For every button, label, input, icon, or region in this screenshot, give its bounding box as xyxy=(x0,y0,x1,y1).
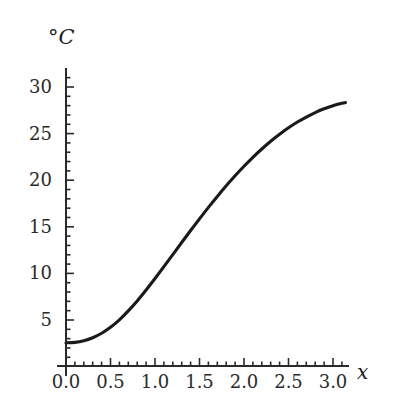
chart-figure: °C x 51015202530 0.00.51.01.52.02.53.0 xyxy=(0,0,396,415)
y-axis-ticks xyxy=(66,78,74,358)
x-tick-label: 3.0 xyxy=(319,373,348,391)
y-tick-label: 30 xyxy=(29,78,52,96)
y-tick-label: 5 xyxy=(41,311,52,329)
plot-area xyxy=(0,0,396,415)
y-tick-label: 15 xyxy=(29,218,52,236)
x-tick-label: 1.0 xyxy=(141,373,170,391)
x-axis-ticks xyxy=(66,358,342,366)
x-tick-label: 1.5 xyxy=(185,373,214,391)
x-tick-label: 0.5 xyxy=(96,373,125,391)
axis-lines xyxy=(57,68,349,376)
data-series-line xyxy=(66,103,345,343)
y-tick-label: 20 xyxy=(29,171,52,189)
x-tick-label: 2.0 xyxy=(230,373,259,391)
y-axis-label: °C xyxy=(48,27,75,48)
x-axis-label: x xyxy=(357,362,368,382)
y-tick-label: 10 xyxy=(29,264,52,282)
x-tick-label: 2.5 xyxy=(274,373,303,391)
x-tick-label: 0.0 xyxy=(52,373,81,391)
y-tick-label: 25 xyxy=(29,125,52,143)
